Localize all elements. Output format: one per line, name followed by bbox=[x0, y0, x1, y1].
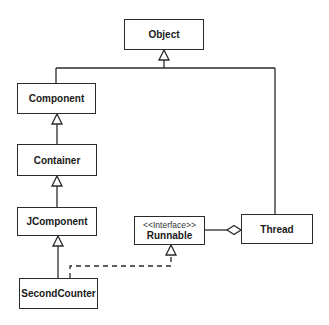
secondcounter-to-runnable-realization bbox=[70, 256, 171, 278]
aggregation-diamond-icon bbox=[227, 226, 241, 235]
component-generalization-arrow-icon bbox=[52, 114, 62, 124]
container-generalization-arrow-icon bbox=[52, 176, 62, 186]
class-name: Thread bbox=[260, 224, 293, 235]
class-name: SecondCounter bbox=[21, 288, 95, 299]
class-name: Runnable bbox=[147, 230, 193, 241]
stereotype-label: <<Interface>> bbox=[143, 220, 196, 230]
class-name: Object bbox=[148, 29, 179, 40]
runnable-realization-arrow-icon bbox=[166, 245, 176, 255]
class-name: Container bbox=[34, 155, 81, 166]
object-generalization-arrow-icon bbox=[159, 50, 169, 60]
class-container: Container bbox=[17, 144, 97, 176]
class-object: Object bbox=[124, 19, 204, 50]
class-name: JComponent bbox=[26, 216, 87, 227]
class-name: Component bbox=[29, 93, 85, 104]
class-thread: Thread bbox=[241, 214, 313, 244]
class-secondcounter: SecondCounter bbox=[19, 278, 98, 309]
jcomponent-generalization-arrow-icon bbox=[53, 236, 63, 246]
class-component: Component bbox=[17, 83, 96, 114]
class-jcomponent: JComponent bbox=[17, 207, 97, 236]
interface-runnable: <<Interface>> Runnable bbox=[134, 216, 205, 245]
